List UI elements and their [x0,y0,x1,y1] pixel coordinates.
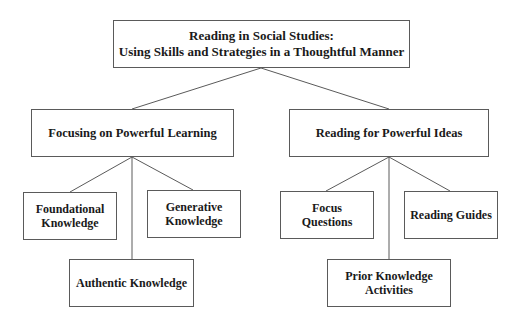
connector-root-left [132,68,261,109]
connector-left-foundational [70,157,132,192]
leaf-label-line1: Generative [165,200,222,214]
leaf-label-line1: Focus [302,201,353,215]
connector-right-guides [389,157,450,191]
branch-node-powerful-ideas: Reading for Powerful Ideas [289,109,489,157]
leaf-label-line1: Foundational [36,202,105,216]
leaf-node-generative-knowledge: Generative Knowledge [147,190,241,238]
branch-label: Focusing on Powerful Learning [48,126,216,141]
leaf-label-line1: Prior Knowledge [345,269,432,283]
leaf-label-line2: Activities [345,283,432,297]
leaf-label-line1: Reading Guides [410,208,492,222]
connector-right-focus [326,157,389,191]
leaf-node-foundational-knowledge: Foundational Knowledge [23,192,117,240]
root-title-line2: Using Skills and Strategies in a Thought… [119,44,404,60]
leaf-node-authentic-knowledge: Authentic Knowledge [69,259,194,307]
leaf-label-line2: Knowledge [36,216,105,230]
connector-root-right [261,68,389,109]
branch-label: Reading for Powerful Ideas [316,126,463,141]
root-node: Reading in Social Studies: Using Skills … [113,20,410,68]
branch-node-powerful-learning: Focusing on Powerful Learning [31,109,234,157]
connector-left-generative [132,157,193,190]
leaf-label-line2: Questions [302,215,353,229]
leaf-node-prior-knowledge-activities: Prior Knowledge Activities [327,259,451,307]
root-title-line1: Reading in Social Studies: [119,28,404,44]
diagram-canvas: Reading in Social Studies: Using Skills … [0,0,523,323]
leaf-node-reading-guides: Reading Guides [404,191,498,239]
leaf-label-line2: Knowledge [165,214,222,228]
leaf-node-focus-questions: Focus Questions [280,191,374,239]
leaf-label-line1: Authentic Knowledge [76,276,187,290]
